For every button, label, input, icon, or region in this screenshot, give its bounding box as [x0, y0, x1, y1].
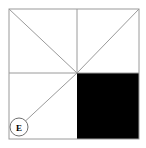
geometric-figure-canvas: E	[0, 0, 146, 148]
vertex-label-e-text: E	[16, 123, 22, 133]
figure-svg: E	[0, 0, 146, 148]
shaded-quadrant-bottom-right	[77, 73, 139, 139]
